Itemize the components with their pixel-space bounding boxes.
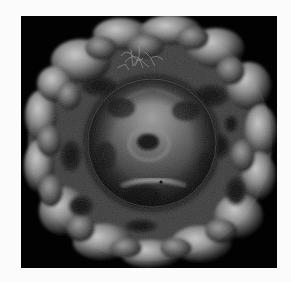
figure-frame <box>21 16 277 268</box>
virus-capsid-render <box>21 16 277 268</box>
